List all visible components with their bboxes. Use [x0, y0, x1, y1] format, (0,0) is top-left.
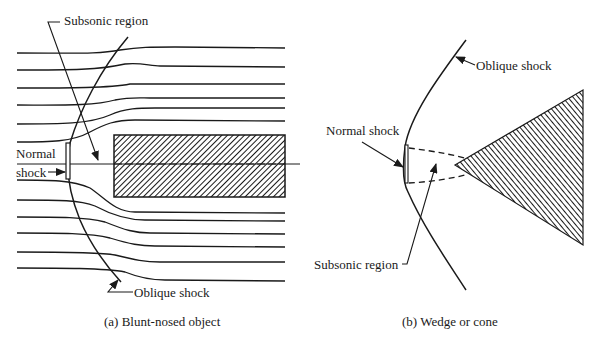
streamline [17, 268, 285, 281]
label-normal-shock-a-line2: shock [16, 166, 46, 179]
normal-shock-bar [405, 145, 408, 183]
subsonic-boundary [409, 148, 465, 158]
normal-shock-bar [66, 143, 70, 179]
streamline [17, 233, 285, 247]
wedge-body [455, 90, 583, 245]
caption-b: (b) Wedge or cone [402, 315, 498, 328]
label-oblique-shock-b: Oblique shock [476, 59, 551, 72]
label-subsonic-region-a: Subsonic region [64, 14, 148, 27]
normal-shock-arrow [362, 142, 403, 167]
streamline [17, 252, 285, 262]
label-normal-shock-a-line1: Normal [16, 147, 56, 160]
shock-diagram-figure: Subsonic region Normal shock Oblique sho… [0, 0, 599, 343]
caption-a: (a) Blunt-nosed object [104, 315, 220, 328]
oblique-shock-leader [456, 57, 475, 65]
streamline [17, 98, 285, 105]
subsonic-leader [48, 22, 98, 160]
label-oblique-shock-a: Oblique shock [134, 286, 209, 299]
label-normal-shock-b: Normal shock [326, 124, 399, 137]
label-subsonic-region-b: Subsonic region [314, 258, 398, 271]
streamline [17, 63, 285, 70]
diagram-graphics [0, 0, 599, 343]
blunt-body [114, 135, 285, 197]
panel-b-wedge [362, 40, 583, 290]
subsonic-boundary [409, 175, 465, 183]
streamline [17, 84, 285, 88]
streamline [17, 108, 285, 124]
panel-a-blunt-nosed [17, 22, 300, 292]
